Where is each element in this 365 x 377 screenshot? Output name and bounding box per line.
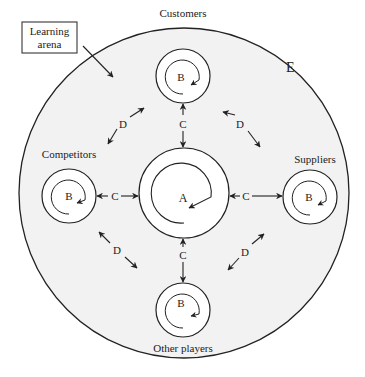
node-other-players-letter: B — [177, 297, 184, 309]
arena-e-label: E — [286, 60, 295, 75]
node-competitors-label: Competitors — [42, 148, 96, 160]
link-d-bottom-left: D — [113, 244, 121, 256]
link-c-top: C — [179, 118, 186, 130]
arena-label-line1: Learning — [30, 25, 70, 37]
link-d-top-left: D — [119, 118, 127, 130]
node-competitors: Competitors B — [42, 148, 96, 223]
node-a-letter: A — [179, 191, 188, 205]
node-suppliers-label: Suppliers — [294, 153, 336, 165]
link-d-top-right: D — [236, 118, 244, 130]
learning-arena-diagram: E Learning arena A Customers B Competito… — [0, 0, 365, 377]
link-c-right: C — [242, 190, 249, 202]
arena-label-line2: arena — [38, 38, 62, 50]
node-other-players: B Other players — [153, 283, 213, 354]
node-competitors-letter: B — [65, 190, 72, 202]
node-other-players-label: Other players — [153, 342, 213, 354]
link-c-bottom: C — [179, 249, 186, 261]
node-customers-letter: B — [177, 71, 184, 83]
node-customers-label: Customers — [159, 7, 206, 19]
node-suppliers-letter: B — [305, 191, 312, 203]
link-d-bottom-right: D — [241, 246, 249, 258]
center-node-a: A — [139, 148, 229, 238]
link-c-left: C — [111, 190, 118, 202]
